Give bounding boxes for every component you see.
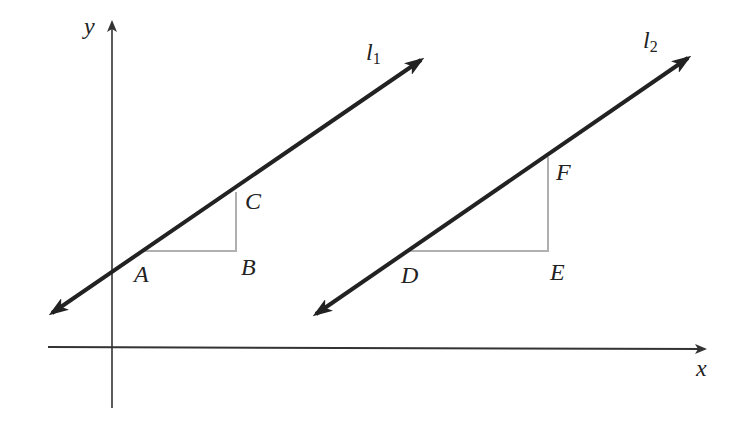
line-l1-subscript: 1 bbox=[373, 50, 381, 67]
point-e-label: E bbox=[550, 260, 565, 284]
x-axis-label: x bbox=[696, 356, 707, 380]
line-l2 bbox=[316, 58, 688, 314]
point-f-label: F bbox=[556, 160, 571, 184]
point-b-label: B bbox=[241, 255, 256, 279]
line-l1-label: l1 bbox=[366, 40, 381, 67]
line-l2-label: l2 bbox=[643, 28, 658, 55]
line-l2-name: l bbox=[643, 27, 650, 53]
x-axis bbox=[48, 347, 705, 349]
line-l2-subscript: 2 bbox=[650, 38, 658, 55]
point-c-label: C bbox=[245, 189, 261, 213]
y-axis-label: y bbox=[84, 14, 95, 38]
line-l1-name: l bbox=[366, 39, 373, 65]
line-l1 bbox=[52, 60, 421, 313]
point-d-label: D bbox=[401, 263, 418, 287]
point-a-label: A bbox=[134, 262, 149, 286]
